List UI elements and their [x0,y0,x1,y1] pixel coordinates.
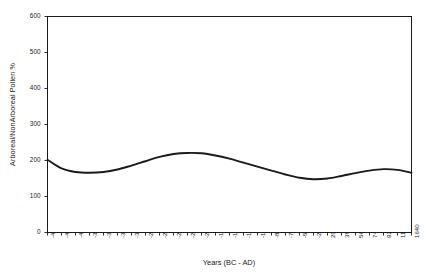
plot-frame [48,17,412,233]
plot-svg [0,0,426,277]
chart-container: Arboreal/NonArboreal Pollen % Years (BC … [0,0,426,277]
